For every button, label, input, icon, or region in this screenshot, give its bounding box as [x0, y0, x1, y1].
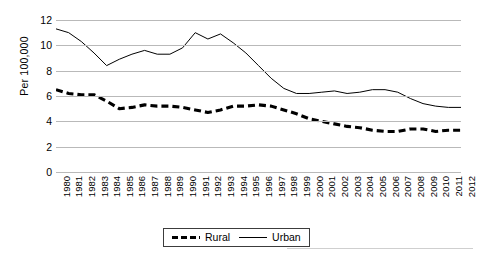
gridline [56, 147, 461, 148]
x-axis-tick-label: 1995 [250, 176, 262, 222]
y-axis-tick-label: 6 [28, 91, 52, 101]
x-axis-tick-label: 1981 [73, 176, 85, 222]
x-axis-tick-label: 1991 [200, 176, 212, 222]
x-axis-tick-label: 2011 [453, 176, 465, 222]
x-axis-tick-label: 1998 [288, 176, 300, 222]
x-axis-tick-label: 2002 [339, 176, 351, 222]
x-axis-tick-label: 1986 [136, 176, 148, 222]
x-axis-tick-label: 2003 [352, 176, 364, 222]
legend-item-rural: Rural [172, 231, 230, 243]
x-axis-tick-label: 2001 [326, 176, 338, 222]
x-axis-tick-label: 1993 [225, 176, 237, 222]
gridline [56, 71, 461, 72]
x-axis-tick-label: 1983 [99, 176, 111, 222]
figure-caption [5, 259, 265, 268]
x-axis-tick-label: 2004 [364, 176, 376, 222]
legend-label-rural: Rural [205, 231, 230, 243]
x-axis-tick-label: 1996 [263, 176, 275, 222]
y-axis-tick-label: 12 [28, 15, 52, 25]
x-axis-tick-label: 2012 [466, 176, 478, 222]
legend-item-urban: Urban [239, 231, 301, 243]
x-axis-tick-label: 1982 [86, 176, 98, 222]
legend: Rural Urban [163, 228, 310, 247]
y-axis-tick-label: 8 [28, 66, 52, 76]
dashed-line-swatch-icon [172, 236, 200, 239]
y-axis-tick-label: 2 [28, 142, 52, 152]
solid-line-swatch-icon [239, 237, 267, 238]
x-axis-tick-label: 1999 [301, 176, 313, 222]
x-axis-tick-label: 2009 [428, 176, 440, 222]
gridline [56, 45, 461, 46]
x-axis-tick-label: 2010 [440, 176, 452, 222]
y-axis-tick-label: 10 [28, 40, 52, 50]
gridline [56, 121, 461, 122]
gridline [56, 172, 461, 173]
x-axis-tick-label: 1988 [162, 176, 174, 222]
x-axis-tick-labels: 1980198119821983198419851986198719881989… [56, 176, 461, 222]
caption-rule [287, 248, 473, 249]
x-axis-tick-label: 2000 [314, 176, 326, 222]
x-axis-tick-label: 1989 [174, 176, 186, 222]
x-axis-tick-label: 2008 [415, 176, 427, 222]
x-axis-tick-label: 1985 [124, 176, 136, 222]
x-axis-tick-label: 2005 [377, 176, 389, 222]
gridline [56, 20, 461, 21]
legend-label-urban: Urban [272, 231, 301, 243]
y-axis-tick-label: 4 [28, 116, 52, 126]
x-axis-tick-label: 1984 [111, 176, 123, 222]
x-axis-tick-label: 2006 [390, 176, 402, 222]
x-axis-tick-label: 1994 [238, 176, 250, 222]
gridline [56, 96, 461, 97]
plot-area [56, 20, 461, 172]
x-axis-tick-label: 1980 [61, 176, 73, 222]
x-axis-tick-label: 2007 [402, 176, 414, 222]
y-axis-tick-labels: 121086420 [26, 0, 52, 269]
x-axis-tick-label: 1992 [212, 176, 224, 222]
x-axis-tick-label: 1997 [276, 176, 288, 222]
x-axis-tick-label: 1987 [149, 176, 161, 222]
x-axis-tick-label: 1990 [187, 176, 199, 222]
y-axis-tick-label: 0 [28, 167, 52, 177]
